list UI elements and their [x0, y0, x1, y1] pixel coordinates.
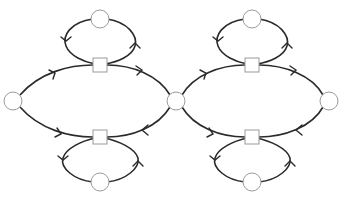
edge-center-to-bottom-left-transition — [107, 107, 170, 137]
edge-bottom-right-loop-left — [215, 138, 247, 182]
edge-bottom-right-transition-to-center — [182, 107, 245, 137]
edge-left-to-top-left-transition — [20, 65, 93, 95]
place-top-left — [91, 10, 109, 28]
transition-top-right — [245, 58, 259, 72]
place-right — [320, 92, 338, 110]
edge-top-left-loop-right — [105, 19, 136, 64]
edge-bottom-left-loop-left — [63, 138, 95, 182]
arrowhead-icon — [296, 125, 302, 135]
transition-bottom-left — [93, 130, 107, 144]
place-center — [167, 92, 185, 110]
edge-bottom-left-loop-right — [105, 138, 138, 182]
arrowhead-icon — [55, 128, 61, 137]
edge-top-left-loop-left — [65, 19, 95, 64]
edge-top-left-transition-to-center — [107, 65, 170, 95]
edge-top-right-transition-to-right — [259, 65, 323, 95]
place-bottom-right — [243, 173, 261, 191]
place-bottom-left — [91, 173, 109, 191]
edge-right-to-bottom-right-transition — [259, 107, 323, 137]
edge-top-right-loop-right — [257, 19, 288, 64]
transition-bottom-right — [245, 130, 259, 144]
transition-top-left — [93, 58, 107, 72]
place-top-right — [243, 10, 261, 28]
edge-bottom-left-transition-to-left — [20, 107, 93, 137]
diagram-canvas — [0, 0, 347, 198]
place-left — [4, 92, 22, 110]
edge-bottom-right-loop-right — [257, 138, 290, 182]
arrowhead-icon — [142, 125, 148, 135]
edge-center-to-top-right-transition — [182, 65, 245, 95]
edge-top-right-loop-left — [217, 19, 247, 64]
